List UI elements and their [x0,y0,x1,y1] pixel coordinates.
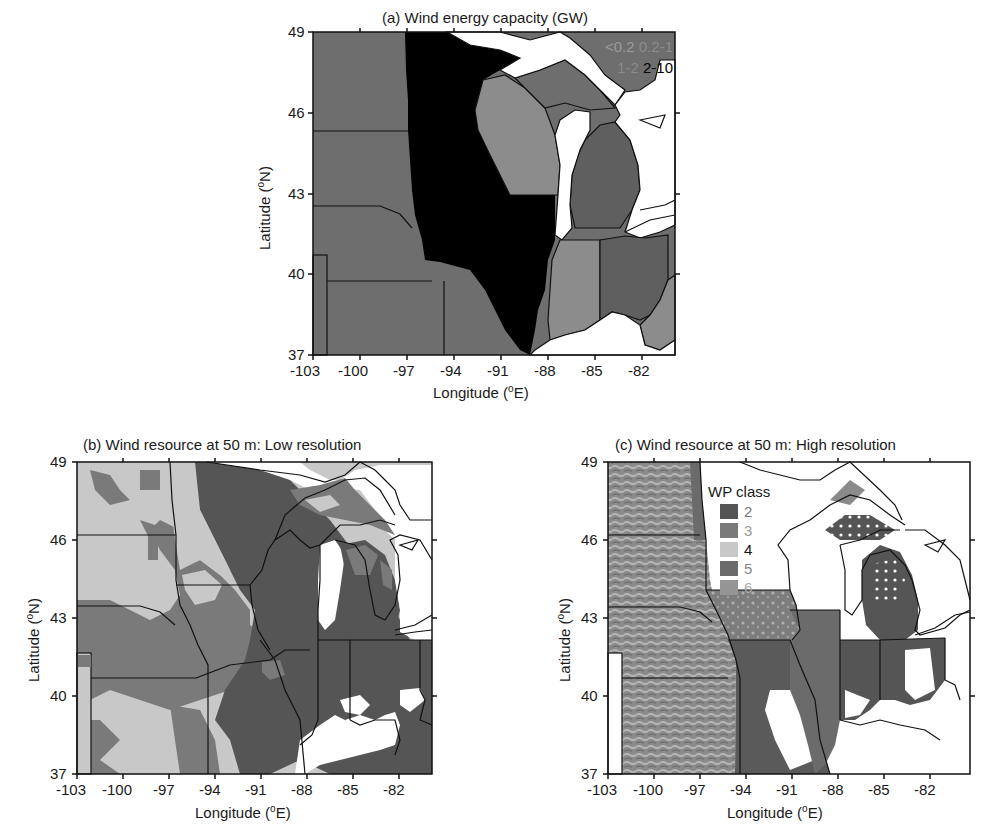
xtick: -94 [730,781,752,798]
ytick: 46 [288,104,305,121]
xtick: -85 [868,781,890,798]
ytick: 37 [288,346,305,363]
panel-c-legend: WP class 2 3 4 5 6 [708,483,770,597]
ytick: 49 [50,453,67,470]
legend-swatch [720,580,738,595]
xtick: -88 [291,781,313,798]
xtick: -94 [199,781,221,798]
xtick: -97 [393,362,415,379]
legend-1-2: 1-2 [617,57,639,78]
ytick: 40 [288,265,305,282]
panel-a: (a) Wind energy capacity (GW) [0,0,991,410]
panel-b-map [0,410,495,839]
legend-swatch [720,504,738,519]
xtick: -91 [487,362,509,379]
ytick: 49 [288,23,305,40]
legend-item-6: 6 [720,578,770,597]
legend-item-5: 5 [720,559,770,578]
legend-item-4: 4 [720,540,770,559]
xtick: -85 [581,362,603,379]
panel-a-legend: <0.2 0.2-1 1-2 2-10 [588,36,673,78]
xtick: -103 [56,781,86,798]
panel-a-ylabel: Latitude (oN) [255,166,273,250]
xtick: -100 [633,781,663,798]
xtick: -97 [684,781,706,798]
ytick: 37 [50,765,67,782]
xtick: -88 [822,781,844,798]
xtick: -100 [338,362,368,379]
panel-c-ylabel: Latitude (oN) [555,598,573,682]
ytick: 43 [288,185,305,202]
legend-02-1: 0.2-1 [639,36,673,57]
xtick: -82 [628,362,650,379]
ytick: 43 [581,609,598,626]
xtick: -82 [383,781,405,798]
legend-title: WP class [708,483,770,500]
legend-item-2: 2 [720,502,770,521]
ytick: 37 [581,765,598,782]
panel-c: (c) Wind resource at 50 m: High resoluti… [495,410,991,839]
xtick: -100 [102,781,132,798]
ytick: 46 [581,531,598,548]
legend-lt02: <0.2 [605,36,635,57]
panel-b-ylabel: Latitude (oN) [24,598,42,682]
legend-swatch [720,561,738,576]
xtick: -97 [153,781,175,798]
legend-swatch [720,542,738,557]
ytick: 46 [50,531,67,548]
xtick: -91 [245,781,267,798]
panel-b-xlabel: Longitude (oE) [195,803,291,821]
legend-item-3: 3 [720,521,770,540]
xtick: -103 [587,781,617,798]
panel-a-map [0,0,991,410]
legend-2-10: 2-10 [643,57,673,78]
panel-b: (b) Wind resource at 50 m: Low resolutio… [0,410,495,839]
ytick: 43 [50,609,67,626]
ytick: 40 [50,687,67,704]
ytick: 49 [581,453,598,470]
panel-c-xlabel: Longitude (oE) [727,803,823,821]
xtick: -91 [776,781,798,798]
ytick: 40 [581,687,598,704]
xtick: -103 [290,362,320,379]
xtick: -82 [914,781,936,798]
xtick: -85 [337,781,359,798]
xtick: -94 [440,362,462,379]
legend-swatch [720,523,738,538]
xtick: -88 [534,362,556,379]
panel-a-xlabel: Longitude (oE) [433,383,529,401]
